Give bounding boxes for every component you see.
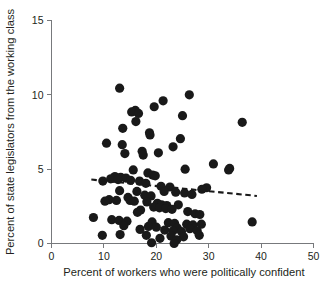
y-tick-label: 5 — [38, 163, 44, 175]
data-point — [130, 197, 139, 206]
data-point — [116, 230, 125, 239]
data-point — [131, 117, 140, 126]
data-point — [147, 238, 156, 247]
data-point — [185, 90, 194, 99]
y-axis-title: Percent of state legislators from the wo… — [4, 8, 16, 255]
data-point — [100, 197, 109, 206]
x-tick-label: 20 — [150, 250, 162, 262]
data-point — [134, 109, 143, 118]
data-point — [142, 231, 151, 240]
x-tick-label: 0 — [49, 250, 55, 262]
axes-group — [52, 21, 314, 244]
data-point — [119, 221, 128, 230]
data-point — [139, 150, 148, 159]
data-point — [144, 222, 153, 231]
data-point — [155, 234, 164, 243]
data-point — [129, 165, 138, 174]
data-point — [145, 130, 154, 139]
data-point — [170, 239, 179, 248]
data-point — [141, 179, 150, 188]
data-point — [89, 213, 98, 222]
y-tick-label: 0 — [38, 237, 44, 249]
data-point — [132, 187, 141, 196]
data-point — [152, 223, 161, 232]
data-point — [98, 231, 107, 240]
data-point — [150, 102, 159, 111]
data-point — [187, 190, 196, 199]
data-point — [195, 210, 204, 219]
data-point — [171, 188, 180, 197]
data-point — [209, 159, 218, 168]
x-tick-label: 10 — [98, 250, 110, 262]
data-point — [181, 165, 190, 174]
plot-canvas: 05101501020304050 Percent of workers who… — [0, 0, 328, 292]
data-point — [120, 149, 129, 158]
x-tick-label: 50 — [308, 250, 320, 262]
data-point — [159, 96, 168, 105]
data-point — [151, 171, 160, 180]
y-tick-label: 15 — [32, 14, 44, 26]
data-point — [195, 231, 204, 240]
data-point — [176, 134, 185, 143]
data-point — [115, 84, 124, 93]
data-point — [168, 142, 177, 151]
data-point — [167, 205, 176, 214]
data-point — [178, 111, 187, 120]
data-point — [224, 165, 233, 174]
data-point — [118, 140, 127, 149]
data-point — [115, 186, 124, 195]
data-points-group — [89, 84, 257, 249]
x-axis-title: Percent of workers who were politically … — [63, 266, 305, 278]
x-tick-label: 30 — [203, 250, 215, 262]
data-point — [118, 124, 127, 133]
data-point — [154, 148, 163, 157]
data-point — [160, 187, 169, 196]
data-point — [238, 118, 247, 127]
x-tick-label: 40 — [255, 250, 267, 262]
data-point — [112, 196, 121, 205]
data-point — [248, 217, 257, 226]
data-point — [133, 208, 142, 217]
data-point — [102, 139, 111, 148]
data-point — [197, 185, 206, 194]
scatter-plot-figure: 05101501020304050 Percent of workers who… — [0, 0, 328, 292]
y-tick-label: 10 — [32, 89, 44, 101]
